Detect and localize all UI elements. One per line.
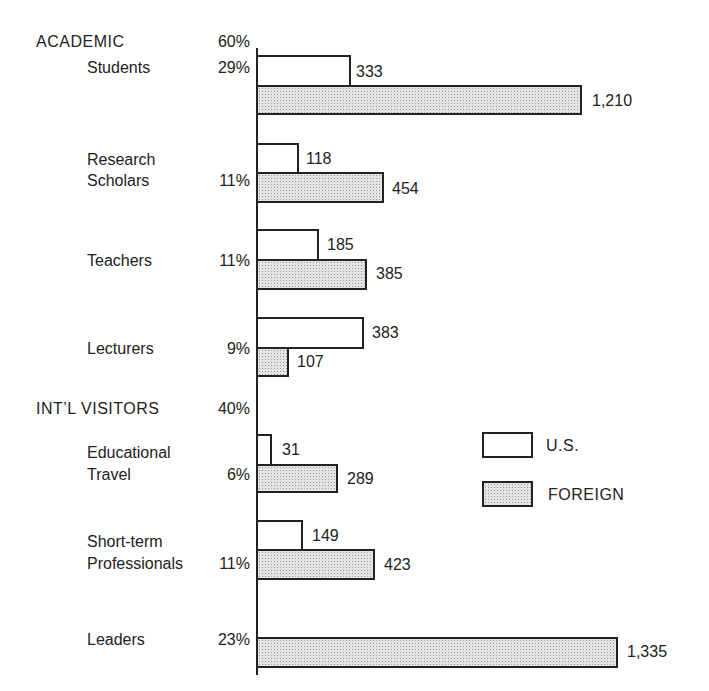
bar-foreign-students	[256, 85, 582, 115]
category-label-short-term-professionals-line1: Short-term	[87, 533, 163, 551]
category-percent-research-scholars: 11%	[200, 172, 250, 190]
legend-swatch-foreign	[482, 481, 533, 507]
group-percent-intl-visitors: 40%	[200, 400, 250, 418]
legend-swatch-us	[482, 432, 533, 458]
value-foreign-research-scholars: 454	[392, 180, 419, 198]
group-label-academic: ACADEMIC	[36, 33, 124, 51]
value-foreign-students: 1,210	[592, 92, 632, 110]
bar-us-teachers	[256, 229, 319, 261]
category-label-students: Students	[87, 59, 150, 77]
bar-foreign-lecturers	[256, 347, 289, 377]
bar-us-short-term-professionals	[256, 520, 303, 551]
value-foreign-teachers: 385	[376, 265, 403, 283]
bar-us-students	[256, 55, 351, 87]
value-foreign-lecturers: 107	[297, 353, 324, 371]
category-label-educational-travel-line2: Travel	[87, 466, 131, 484]
group-percent-academic: 60%	[200, 33, 250, 51]
value-us-short-term-professionals: 149	[312, 527, 339, 545]
category-percent-educational-travel: 6%	[200, 466, 250, 484]
group-label-intl-visitors: INT’L VISITORS	[36, 400, 159, 418]
value-foreign-leaders: 1,335	[627, 643, 667, 661]
bar-foreign-teachers	[256, 259, 367, 290]
category-percent-leaders: 23%	[200, 631, 250, 649]
value-us-teachers: 185	[327, 236, 354, 254]
category-percent-lecturers: 9%	[200, 340, 250, 358]
value-foreign-educational-travel: 289	[347, 470, 374, 488]
category-label-research-scholars-line1: Research	[87, 151, 155, 169]
category-label-leaders: Leaders	[87, 631, 145, 649]
bar-foreign-research-scholars	[256, 172, 384, 203]
category-label-educational-travel-line1: Educational	[87, 444, 171, 462]
legend-label-foreign: FOREIGN	[548, 486, 624, 504]
category-label-lecturers: Lecturers	[87, 340, 154, 358]
bar-us-lecturers	[256, 317, 364, 349]
category-percent-students: 29%	[200, 59, 250, 77]
bar-us-research-scholars	[256, 143, 299, 174]
value-us-lecturers: 383	[372, 324, 399, 342]
bar-foreign-leaders	[256, 637, 618, 668]
value-foreign-short-term-professionals: 423	[384, 556, 411, 574]
category-label-short-term-professionals-line2: Professionals	[87, 555, 183, 573]
category-percent-teachers: 11%	[200, 252, 250, 270]
bar-foreign-short-term-professionals	[256, 549, 375, 580]
category-percent-short-term-professionals: 11%	[200, 555, 250, 573]
value-us-students: 333	[356, 63, 383, 81]
category-label-teachers: Teachers	[87, 252, 152, 270]
legend-label-us: U.S.	[546, 437, 579, 455]
bar-us-educational-travel	[256, 434, 272, 466]
value-us-research-scholars: 118	[306, 150, 332, 168]
bar-foreign-educational-travel	[256, 464, 338, 493]
exchange-participants-chart: ACADEMIC 60% INT’L VISITORS 40% Students…	[0, 0, 709, 691]
category-label-research-scholars-line2: Scholars	[87, 172, 149, 190]
value-us-educational-travel: 31	[282, 441, 300, 459]
